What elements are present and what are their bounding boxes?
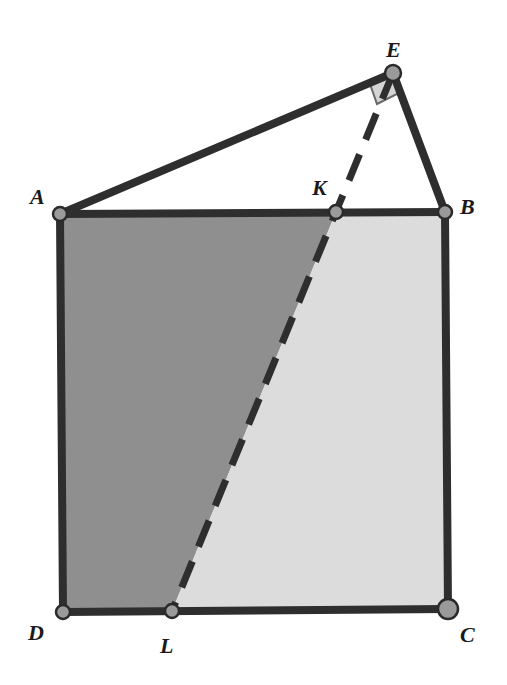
segment-AE [60, 73, 393, 214]
point-L [165, 604, 179, 618]
point-E [385, 65, 401, 81]
point-K [329, 205, 343, 219]
point-A [53, 207, 67, 221]
label-B: B [459, 194, 475, 219]
segment-CD [63, 609, 448, 612]
segment-DA [60, 214, 63, 612]
label-K: K [311, 175, 328, 200]
segment-AB [60, 212, 445, 214]
point-D [56, 605, 70, 619]
label-L: L [159, 633, 173, 658]
label-C: C [460, 622, 475, 647]
point-B [438, 205, 452, 219]
geometry-diagram: E A K B D L C [0, 0, 507, 685]
segment-EB [393, 73, 445, 212]
label-A: A [28, 184, 45, 209]
label-E: E [385, 37, 401, 62]
point-C [438, 599, 458, 619]
label-D: D [27, 620, 44, 645]
segment-BC [445, 212, 448, 609]
